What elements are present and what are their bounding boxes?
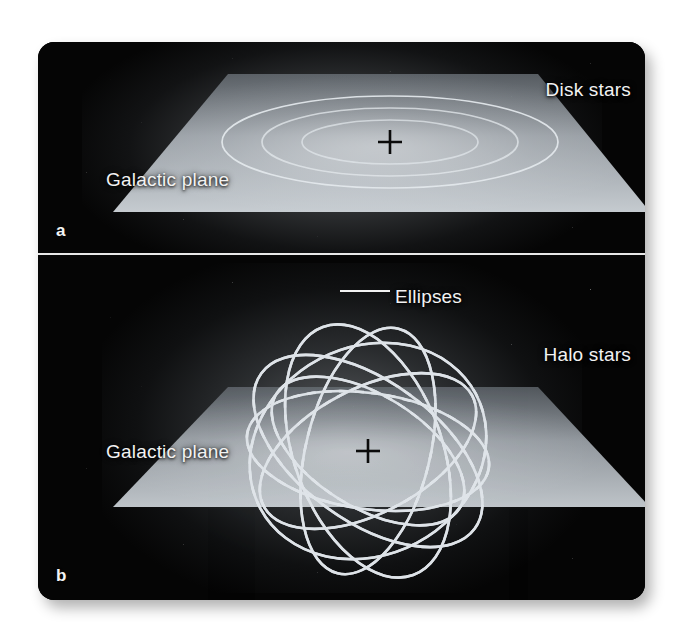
label-galactic-plane-b: Galactic plane <box>106 442 229 461</box>
disk-orbit-diagram <box>38 42 645 253</box>
label-ellipses: Ellipses <box>395 287 462 306</box>
panel-a-scene <box>38 42 645 253</box>
panel-letter-a: a <box>56 222 65 239</box>
panel-b-halo-stars: Ellipses Halo stars Galactic plane b <box>38 255 645 600</box>
label-galactic-plane-a: Galactic plane <box>106 170 229 189</box>
figure-card: Disk stars Galactic plane a <box>38 42 645 600</box>
label-halo-stars: Halo stars <box>543 345 631 364</box>
panel-letter-b: b <box>56 567 66 584</box>
panel-b-scene <box>38 255 645 600</box>
panel-divider <box>38 253 645 255</box>
halo-orbit-diagram <box>38 255 645 600</box>
panel-a-disk-stars: Disk stars Galactic plane a <box>38 42 645 253</box>
label-disk-stars: Disk stars <box>546 80 631 99</box>
